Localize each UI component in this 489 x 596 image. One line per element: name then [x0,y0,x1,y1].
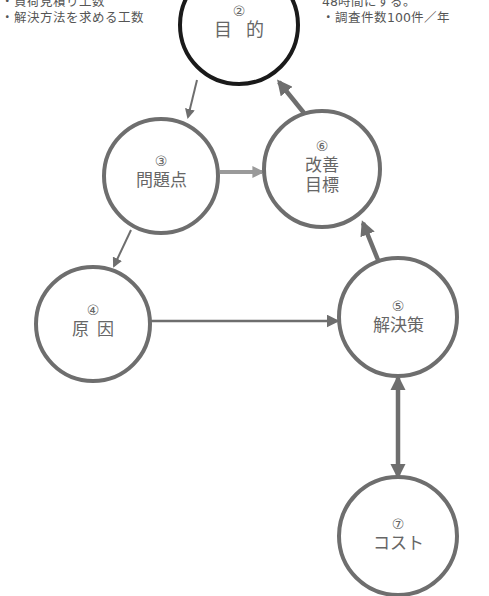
node-problem-number: ③ [111,152,211,170]
node-target-number: ⑥ [272,137,372,155]
node-cost: ⑦ コスト [348,515,448,553]
node-target: ⑥ 改善 目標 [272,137,372,195]
node-target-label-line-1: 改善 [272,155,372,175]
node-cost-number: ⑦ [348,515,448,533]
node-solution-label: 解決策 [348,315,448,335]
node-cost-label: コスト [348,533,448,553]
arrow-target-to-goal [279,82,304,113]
node-cause: ④ 原因 [43,301,143,339]
node-goal-label: 目的 [203,20,289,40]
node-cause-label: 原因 [51,319,143,339]
node-goal-number: ② [189,2,289,20]
node-solution-number: ⑤ [348,297,448,315]
node-target-label-line-2: 目標 [272,175,372,195]
arrow-goal-to-problem [188,80,197,117]
arrow-problem-to-cause [114,230,131,266]
node-cause-number: ④ [43,301,143,319]
node-problem-label: 問題点 [111,170,211,190]
node-solution: ⑤ 解決策 [348,297,448,335]
arrow-solution-to-target [363,223,378,260]
node-problem: ③ 問題点 [111,152,211,190]
node-goal: ② 目的 [189,2,289,40]
